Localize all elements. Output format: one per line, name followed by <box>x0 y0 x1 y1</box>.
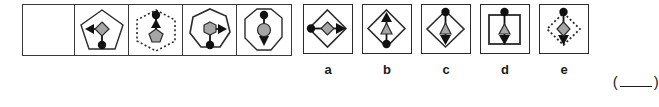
figure-option-e <box>540 5 587 52</box>
dot-bottom-icon <box>98 41 106 49</box>
option-a-label: a <box>303 62 353 77</box>
answer-options: a b c <box>303 4 593 56</box>
question-cell-pentagon <box>75 5 129 55</box>
option-b[interactable] <box>362 4 412 54</box>
question-sequence-row <box>22 4 292 56</box>
figure-option-a <box>304 5 351 52</box>
option-e[interactable] <box>539 4 589 54</box>
question-cell-hexagon <box>129 5 183 55</box>
option-d[interactable] <box>480 4 530 54</box>
option-d-label: d <box>480 62 530 77</box>
figure-octagon-circle <box>237 5 291 55</box>
answer-close-paren: ) <box>654 73 659 90</box>
question-cell-empty[interactable] <box>23 5 75 55</box>
dot-top-icon <box>500 8 508 16</box>
figure-option-c <box>422 5 469 52</box>
option-c-label: c <box>421 62 471 77</box>
inner-circle-icon <box>258 24 271 37</box>
option-c[interactable] <box>421 4 471 54</box>
figure-hexagon-pentagon <box>129 5 183 55</box>
dot-top-icon <box>559 8 567 16</box>
dot-bottom-icon <box>382 40 390 48</box>
dot-top-icon <box>152 11 160 19</box>
dot-top-icon <box>441 8 449 16</box>
figure-heptagon-hexagon <box>183 5 237 55</box>
answer-blank[interactable]: () <box>596 56 659 107</box>
inner-hexagon-icon <box>204 22 216 35</box>
dot-top-icon <box>260 11 268 19</box>
option-b-label: b <box>362 62 412 77</box>
dot-bottom-icon <box>206 41 214 49</box>
question-cell-heptagon <box>183 5 237 55</box>
option-a[interactable] <box>303 4 353 54</box>
option-e-label: e <box>539 62 589 77</box>
figure-option-d <box>481 5 528 52</box>
answer-open-paren: ( <box>613 73 618 90</box>
figure-pentagon-diamond <box>75 5 129 55</box>
answer-input-line[interactable] <box>620 75 652 87</box>
question-cell-octagon <box>237 5 291 55</box>
figure-option-b <box>363 5 410 52</box>
dot-left-icon <box>307 24 315 32</box>
